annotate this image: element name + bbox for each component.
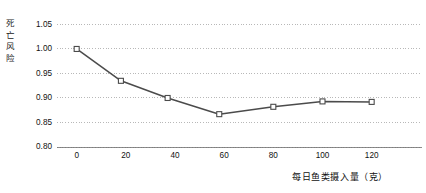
x-axis-tick-label: 60 — [220, 151, 230, 160]
x-axis-label: 每日鱼类摄入量（克） — [292, 171, 388, 182]
data-point-marker — [320, 99, 325, 104]
data-point-marker — [369, 99, 374, 104]
y-axis-label-char: 死 — [6, 18, 15, 28]
y-axis-tick-label: 0.85 — [36, 118, 52, 127]
data-point-marker — [165, 95, 170, 100]
y-axis-tick-label: 1.00 — [36, 44, 52, 53]
y-axis-label: 死亡风险 — [6, 18, 15, 63]
y-axis-label-char: 亡 — [6, 30, 15, 40]
y-axis-tick-label: 0.80 — [36, 142, 52, 151]
y-axis-tick-label: 0.90 — [36, 93, 52, 102]
chart-figure: 死亡风险 0.800.850.900.951.001.05 0204060801… — [0, 0, 426, 193]
y-axis-label-char: 险 — [6, 53, 15, 63]
y-axis-tick-label: 0.95 — [36, 69, 52, 78]
data-point-marker — [74, 46, 79, 51]
y-axis-label-char: 风 — [6, 41, 15, 51]
chart-background — [0, 0, 426, 193]
x-axis-tick-label: 0 — [74, 151, 79, 160]
x-axis-tick-label: 120 — [365, 151, 379, 160]
x-axis-tick-label: 80 — [269, 151, 279, 160]
data-point-marker — [271, 104, 276, 109]
x-axis-tick-label: 40 — [170, 151, 180, 160]
x-axis-tick-label: 20 — [121, 151, 131, 160]
x-axis-tick-label: 100 — [316, 151, 330, 160]
line-chart-canvas: 死亡风险 0.800.850.900.951.001.05 0204060801… — [0, 0, 426, 193]
data-point-marker — [118, 78, 123, 83]
y-axis-tick-label: 1.05 — [36, 20, 52, 29]
data-point-marker — [217, 112, 222, 117]
